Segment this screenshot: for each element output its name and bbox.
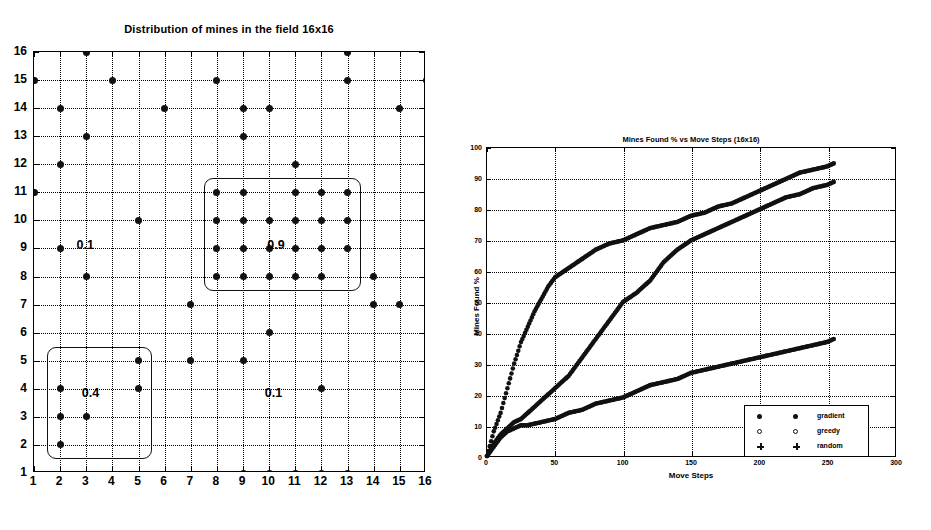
mine-distribution-panel: Distribution of mines in the field 16x16… [0, 0, 460, 530]
mine-point [344, 77, 351, 84]
plus-marker-icon [757, 444, 764, 450]
left-y-tick-label: 3 [3, 409, 27, 423]
circle-marker-icon [757, 429, 762, 434]
mine-point [161, 105, 168, 112]
legend-item-random[interactable]: random [745, 440, 868, 456]
left-y-tick-label: 2 [3, 437, 27, 451]
density-label: 0.1 [77, 238, 94, 252]
mine-point [135, 357, 142, 364]
legend-label: gradient [817, 412, 845, 419]
density-label: 0.1 [265, 386, 282, 400]
right-x-tick-label: 200 [753, 459, 765, 466]
legend-item-gradient[interactable]: gradient [745, 410, 868, 426]
mine-point [57, 245, 64, 252]
mine-point [344, 52, 351, 56]
mine-point [344, 470, 351, 472]
mine-point [135, 217, 142, 224]
mine-point [57, 385, 64, 392]
figure-container: Distribution of mines in the field 16x16… [0, 0, 931, 530]
left-x-tick-label: 4 [108, 474, 115, 488]
mine-point [318, 385, 325, 392]
left-y-tick-label: 13 [3, 128, 27, 142]
mine-point [240, 245, 247, 252]
mine-point [266, 273, 273, 280]
density-label: 0.9 [267, 238, 284, 252]
right-y-tick-label: 0 [460, 454, 482, 461]
left-y-tick-label: 11 [3, 184, 27, 198]
right-y-axis-title: Mines Found % [472, 267, 481, 347]
left-y-tick-label: 8 [3, 269, 27, 283]
mine-point [318, 217, 325, 224]
mine-point [109, 77, 116, 84]
mine-point [213, 273, 220, 280]
mine-point [57, 441, 64, 448]
left-x-tick-label: 16 [418, 474, 431, 488]
mine-point [344, 189, 351, 196]
mine-point [318, 245, 325, 252]
left-mine-points [34, 52, 424, 471]
density-label: 0.4 [82, 386, 99, 400]
legend-label: greedy [817, 427, 840, 434]
right-y-tick-label: 90 [460, 175, 482, 182]
left-x-tick-label: 13 [340, 474, 353, 488]
mine-point [240, 189, 247, 196]
left-y-tick-label: 12 [3, 156, 27, 170]
mine-point [240, 105, 247, 112]
left-x-tick-label: 5 [134, 474, 141, 488]
mine-point [266, 217, 273, 224]
dot-glyph [757, 414, 762, 419]
left-x-tick-label: 6 [160, 474, 167, 488]
mine-point [240, 273, 247, 280]
mine-point [318, 189, 325, 196]
right-y-tick-label: 80 [460, 206, 482, 213]
plus-glyph [757, 443, 764, 450]
right-y-tick-label: 70 [460, 237, 482, 244]
left-y-tick-label: 16 [3, 44, 27, 58]
mine-point [318, 273, 325, 280]
left-y-tick-label: 1 [3, 465, 27, 479]
left-x-tick-label: 15 [392, 474, 405, 488]
left-y-tick-label: 15 [3, 72, 27, 86]
left-x-tick-label: 3 [82, 474, 89, 488]
mine-point [318, 470, 325, 472]
right-x-tick-label: 0 [484, 459, 488, 466]
right-x-tick-label: 250 [822, 459, 834, 466]
left-y-tick-label: 9 [3, 240, 27, 254]
plus-glyph [793, 443, 800, 450]
mine-point [292, 161, 299, 168]
mine-point [213, 217, 220, 224]
mine-point [83, 133, 90, 140]
left-x-tick-label: 12 [314, 474, 327, 488]
right-y-tick-label: 10 [460, 423, 482, 430]
left-y-tick-label: 14 [3, 100, 27, 114]
mine-point [396, 105, 403, 112]
left-y-tick-label: 4 [3, 381, 27, 395]
legend-label: random [817, 442, 843, 449]
circle-glyph [757, 429, 762, 434]
dot-glyph [793, 414, 798, 419]
mine-point [344, 217, 351, 224]
mine-point [370, 273, 377, 280]
right-y-tick-label: 30 [460, 361, 482, 368]
mine-point [213, 245, 220, 252]
right-x-tick-label: 300 [890, 459, 902, 466]
mine-point [83, 413, 90, 420]
left-x-tick-label: 14 [366, 474, 379, 488]
legend-item-greedy[interactable]: greedy [745, 425, 868, 441]
left-x-tick-label: 1 [30, 474, 37, 488]
mine-point [135, 385, 142, 392]
dot-marker-icon-secondary [793, 414, 798, 419]
mine-point [83, 273, 90, 280]
mine-point [83, 52, 90, 56]
right-chart-title: Mines Found % vs Move Steps (16x16) [486, 135, 896, 144]
mine-point [292, 470, 299, 472]
mine-point [57, 161, 64, 168]
mine-point [213, 189, 220, 196]
left-x-tick-label: 8 [213, 474, 220, 488]
right-y-tick-label: 100 [460, 144, 482, 151]
right-x-tick-label: 50 [550, 459, 558, 466]
left-plot-area [33, 51, 425, 472]
legend[interactable]: gradientgreedyrandom [744, 405, 869, 457]
right-x-tick-label: 100 [617, 459, 629, 466]
mines-found-panel: Mines Found % vs Move Steps (16x16) 0501… [460, 0, 931, 530]
